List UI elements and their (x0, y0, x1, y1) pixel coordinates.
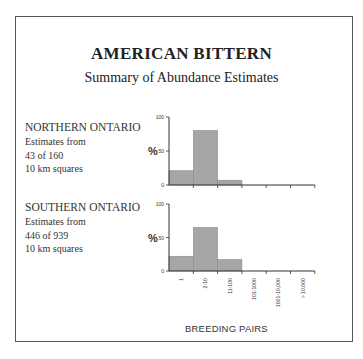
y-tick-label: 50 (158, 235, 164, 241)
bar (169, 256, 193, 271)
x-tick-label: 1 (178, 278, 184, 281)
y-tick-label: 0 (161, 182, 164, 188)
x-tick-label: > 10,000 (300, 278, 306, 298)
bar (193, 131, 217, 185)
x-tick-label: 11-100 (227, 278, 233, 294)
y-tick-label: 100 (156, 201, 165, 207)
bar (193, 227, 217, 271)
x-tick-label: 2-10 (202, 278, 208, 288)
y-tick-label: 50 (158, 148, 164, 154)
x-tick-label: 1001-10,000 (275, 278, 281, 307)
x-tick-label: 101-1000 (251, 278, 257, 300)
bar (218, 180, 242, 185)
x-axis-label: BREEDING PAIRS (185, 323, 268, 334)
bar (169, 171, 193, 185)
y-tick-label: 0 (161, 268, 164, 274)
bar-chart-north: 100500%100500%12-1011-100101-10001001-10… (0, 0, 363, 359)
bar (218, 260, 242, 271)
y-tick-label: 100 (156, 114, 165, 120)
y-axis-label: % (148, 232, 158, 244)
y-axis-label: % (148, 145, 158, 157)
